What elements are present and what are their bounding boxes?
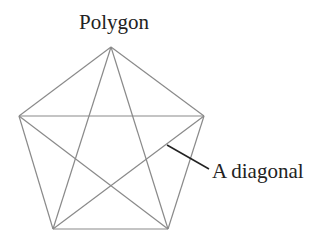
diagonal <box>19 116 168 229</box>
diagonal <box>53 47 111 229</box>
polygon-diagram: Polygon A diagonal <box>0 0 321 248</box>
pentagon-edges <box>19 47 204 229</box>
pentagon-figure <box>0 0 321 248</box>
edge <box>111 47 204 116</box>
diagonal-label: A diagonal <box>212 159 304 184</box>
edge <box>168 116 204 229</box>
diagonal <box>111 47 168 229</box>
edge <box>19 47 111 116</box>
diagonal-highlighted <box>53 116 204 229</box>
edge <box>19 116 53 229</box>
